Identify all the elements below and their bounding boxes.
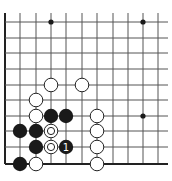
hoshi-point xyxy=(140,19,145,24)
black-stone-numbered: 1 xyxy=(59,140,73,154)
hoshi-point xyxy=(140,113,145,118)
black-stone xyxy=(59,109,73,123)
white-stone xyxy=(90,140,104,154)
white-stone-marked xyxy=(44,124,58,138)
white-stone xyxy=(29,157,43,171)
white-stone-marked xyxy=(44,140,58,154)
black-stone xyxy=(44,109,58,123)
white-stone xyxy=(90,109,104,123)
hoshi-point xyxy=(48,19,53,24)
black-stone xyxy=(13,124,27,138)
white-stone xyxy=(44,78,58,92)
black-stone xyxy=(29,140,43,154)
white-stone xyxy=(75,78,89,92)
stones: 1 xyxy=(13,78,104,171)
white-stone xyxy=(29,93,43,107)
white-stone xyxy=(90,157,104,171)
white-stone xyxy=(90,124,104,138)
black-stone xyxy=(29,124,43,138)
white-stone xyxy=(29,109,43,123)
black-stone xyxy=(13,157,27,171)
move-number-label: 1 xyxy=(63,142,69,153)
go-board: 1 xyxy=(0,0,172,181)
